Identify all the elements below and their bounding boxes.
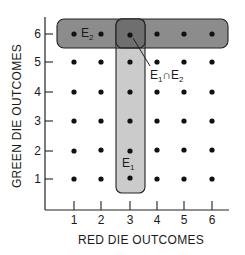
y-tick-3: 3 [34,114,41,128]
x-tick-3: 3 [127,213,134,227]
x-axis-title: RED DIE OUTCOMES [78,233,204,247]
y-tick-6: 6 [34,27,41,41]
y-axis-title: GREEN DIE OUTCOMES [10,44,24,188]
x-axis-ticks [74,201,212,210]
x-tick-6: 6 [209,213,216,227]
y-tick-2: 2 [34,144,41,158]
x-tick-1: 1 [71,213,78,227]
sample-space-diagram: 1 2 3 4 5 6 1 2 3 4 5 6 RED DIE OUTCOMES… [0,0,245,255]
x-tick-2: 2 [98,213,105,227]
y-axis-ticks [45,34,53,179]
x-tick-4: 4 [154,213,161,227]
y-tick-labels: 1 2 3 4 5 6 [34,27,41,186]
y-tick-4: 4 [34,85,41,99]
x-tick-labels: 1 2 3 4 5 6 [71,213,216,227]
label-intersection: E1∩E2 [150,68,184,84]
y-tick-5: 5 [34,55,41,69]
x-tick-5: 5 [181,213,188,227]
y-tick-1: 1 [34,172,41,186]
